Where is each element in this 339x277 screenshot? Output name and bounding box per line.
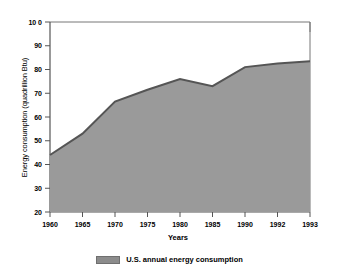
data-area-fill	[50, 61, 310, 212]
y-tick-label: 70	[18, 90, 42, 97]
y-tick-label: 90	[18, 42, 42, 49]
y-tick-label: 20	[18, 209, 42, 216]
chart-legend: U.S. annual energy consumption	[0, 255, 339, 264]
y-tick-label: 80	[18, 66, 42, 73]
x-axis-ticks	[50, 212, 310, 217]
y-tick-label: 50	[18, 137, 42, 144]
y-tick-label: 30	[18, 185, 42, 192]
x-tick-label: 1993	[290, 221, 330, 228]
x-axis-title: Years	[44, 233, 312, 242]
y-axis-ticks	[45, 22, 50, 212]
legend-swatch-icon	[96, 256, 120, 264]
energy-consumption-area-chart: Energy consumption (quadrillion Btu)	[0, 0, 339, 277]
y-tick-label: 60	[18, 114, 42, 121]
legend-label: U.S. annual energy consumption	[126, 255, 243, 264]
y-tick-label: 10 0	[18, 19, 42, 26]
y-tick-label: 40	[18, 161, 42, 168]
